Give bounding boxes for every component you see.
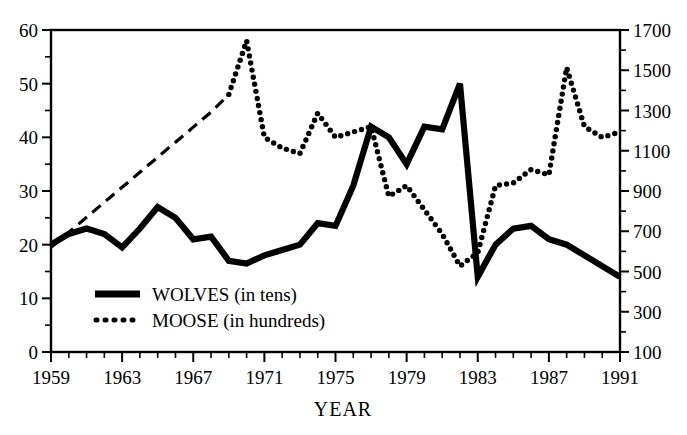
right-axis-tick-label: 500: [633, 262, 662, 283]
moose-data-dot: [605, 133, 610, 138]
moose-data-dot: [402, 184, 407, 189]
moose-data-dot: [504, 181, 509, 186]
moose-data-dot: [303, 137, 308, 142]
moose-data-dot: [517, 176, 522, 181]
moose-data-dot: [359, 127, 364, 132]
moose-data-dot: [465, 258, 470, 263]
right-axis-tick-label: 1100: [633, 141, 670, 162]
moose-data-dot: [257, 110, 262, 115]
moose-data-dot: [291, 149, 296, 154]
moose-data-dot: [284, 147, 289, 152]
moose-data-dot: [571, 87, 576, 92]
moose-data-dot: [528, 167, 533, 172]
moose-data-dot: [332, 133, 337, 138]
moose-data-dot: [375, 149, 380, 154]
moose-data-dot: [448, 246, 453, 251]
moose-data-dot: [549, 155, 554, 160]
moose-data-dot: [249, 67, 254, 72]
moose-data-dot: [378, 163, 383, 168]
moose-data-dot: [245, 46, 250, 51]
x-axis-tick-label: 1983: [459, 367, 497, 388]
moose-data-dot: [554, 127, 559, 132]
moose-data-dot: [553, 134, 558, 139]
right-axis-tick-label: 100: [633, 342, 662, 363]
moose-data-dot: [565, 67, 570, 72]
moose-data-dot: [315, 111, 320, 116]
moose-data-dot: [352, 129, 357, 134]
left-axis-tick-label: 30: [19, 181, 38, 202]
moose-data-dot: [377, 156, 382, 161]
moose-data-dot: [459, 262, 464, 267]
x-axis-tick-label: 1975: [317, 367, 355, 388]
moose-data-dot: [441, 234, 446, 239]
moose-data-dot: [542, 171, 547, 176]
moose-data-dot: [237, 58, 242, 63]
moose-data-dot: [258, 117, 263, 122]
right-axis-tick-label: 1300: [633, 101, 671, 122]
moose-data-dot: [323, 122, 328, 127]
right-axis-tick-label: 1700: [633, 20, 671, 41]
moose-data-dot: [561, 84, 566, 89]
moose-data-dot: [492, 186, 497, 191]
moose-data-dot: [551, 141, 556, 146]
moose-data-dot: [575, 101, 580, 106]
moose-data-dot: [562, 77, 567, 82]
moose-data-dot: [382, 177, 387, 182]
moose-data-dot: [252, 82, 257, 87]
moose-data-dot: [481, 228, 486, 233]
moose-data-dot: [396, 188, 401, 193]
x-axis-tick-label: 1967: [174, 367, 212, 388]
moose-data-dot: [573, 94, 578, 99]
moose-data-dot: [390, 191, 395, 196]
moose-data-dot: [312, 118, 317, 123]
moose-data-dot: [424, 210, 429, 215]
moose-data-dot: [231, 78, 236, 83]
moose-data-dot: [260, 124, 265, 129]
x-axis-tick-label: 1959: [32, 367, 70, 388]
moose-data-dot: [328, 127, 333, 132]
moose-data-dot: [271, 140, 276, 145]
right-axis-tick-label: 1500: [633, 60, 671, 81]
moose-data-dot: [556, 113, 561, 118]
moose-data-dot: [577, 108, 582, 113]
moose-data-dot: [240, 51, 245, 56]
x-axis-tick-label: 1991: [601, 367, 639, 388]
moose-data-dot: [380, 170, 385, 175]
moose-data-dot: [265, 137, 270, 142]
moose-data-dot: [558, 98, 563, 103]
moose-data-dot: [488, 200, 493, 205]
moose-data-dot: [345, 131, 350, 136]
moose-data-dot: [535, 169, 540, 174]
x-axis-tick-label: 1979: [388, 367, 426, 388]
moose-data-dot: [373, 142, 378, 147]
x-axis-tick-label: 1987: [530, 367, 568, 388]
moose-data-dot: [338, 133, 343, 138]
moose-data-dot: [407, 187, 412, 192]
moose-data-dot: [550, 148, 555, 153]
moose-data-dot: [371, 135, 376, 140]
moose-data-dot: [522, 171, 527, 176]
moose-data-dot: [497, 182, 502, 187]
x-axis-tick-label: 1971: [245, 367, 283, 388]
moose-data-dot: [485, 214, 490, 219]
left-axis-tick-label: 60: [19, 20, 38, 41]
moose-data-dot: [581, 122, 586, 127]
left-axis-tick-label: 40: [19, 127, 38, 148]
moose-data-dot: [490, 193, 495, 198]
moose-data-dot: [300, 144, 305, 149]
moose-data-dot: [277, 144, 282, 149]
left-axis-tick-label: 50: [19, 74, 38, 95]
moose-data-dot: [228, 85, 233, 90]
moose-data-dot: [411, 193, 416, 198]
right-axis-tick-label: 300: [633, 302, 662, 323]
moose-data-dot: [567, 74, 572, 79]
moose-data-dot: [612, 131, 617, 136]
moose-data-dot: [384, 184, 389, 189]
moose-data-dot: [598, 134, 603, 139]
moose-data-dot: [248, 60, 253, 65]
moose-data-dot: [233, 71, 238, 76]
legend-label-wolves: WOLVES (in tens): [152, 284, 297, 306]
x-axis-tick-labels: 195919631967197119751979198319871991: [32, 367, 639, 388]
moose-data-dot: [420, 205, 425, 210]
moose-data-dot: [428, 216, 433, 221]
